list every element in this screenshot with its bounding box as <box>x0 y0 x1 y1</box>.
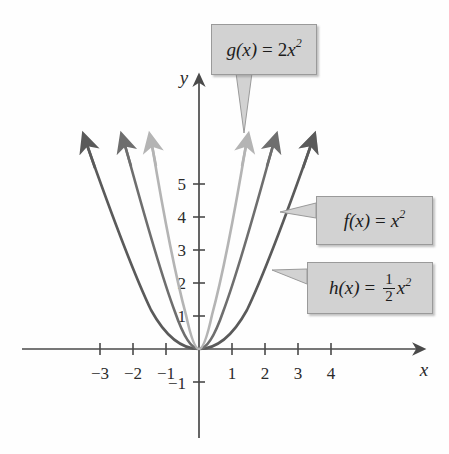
x-tick-label: 4 <box>327 364 336 383</box>
y-tick-label: 5 <box>178 175 187 194</box>
equation-g-arg: (x) <box>236 39 257 61</box>
equation-g-exponent: 2 <box>296 36 302 51</box>
equation-g-coefficient: 2 <box>278 39 288 61</box>
equation-h-arg: (x) <box>338 277 359 299</box>
callout-g: g(x)=2x2 <box>211 24 317 75</box>
equation-f: f(x)=x2 <box>344 210 406 232</box>
equation-g-equals: = <box>262 39 273 61</box>
x-axis-tick-labels: −3 −2 −1 1 2 3 4 <box>91 364 336 383</box>
equation-h-variable: x <box>397 277 405 299</box>
equation-f-exponent: 2 <box>399 207 405 222</box>
y-tick-label: −1 <box>168 374 186 393</box>
equation-f-variable: x <box>391 210 399 232</box>
callout-f: f(x)=x2 <box>316 196 433 245</box>
x-axis-label: x <box>419 359 429 380</box>
equation-f-arg: (x) <box>349 210 370 232</box>
x-tick-label: −2 <box>124 364 142 383</box>
x-tick-label: 3 <box>294 364 303 383</box>
fraction-numerator: 1 <box>383 272 395 287</box>
parabola-comparison-figure: −3 −2 −1 1 2 3 4 −1 1 2 3 4 5 x y <box>0 0 449 454</box>
x-tick-label: 2 <box>261 364 270 383</box>
equation-g-fn: g <box>226 39 236 61</box>
y-axis-label: y <box>178 67 189 88</box>
equation-h: h(x)=12x2 <box>329 272 411 304</box>
y-tick-label: 3 <box>178 241 187 260</box>
equation-g-variable: x <box>287 39 295 61</box>
fraction-denominator: 2 <box>383 288 395 304</box>
y-tick-label: 4 <box>178 208 187 227</box>
equation-h-exponent: 2 <box>405 275 411 290</box>
equation-f-equals: = <box>375 210 386 232</box>
equation-h-equals: = <box>364 277 375 299</box>
x-tick-label: −3 <box>91 364 109 383</box>
fraction-one-half: 12 <box>383 272 395 304</box>
x-tick-label: 1 <box>228 364 237 383</box>
callout-h: h(x)=12x2 <box>307 262 433 314</box>
callout-pointer-g <box>236 73 252 133</box>
equation-g: g(x)=2x2 <box>226 39 301 61</box>
callout-pointer-h <box>272 269 307 284</box>
equation-h-fn: h <box>329 277 339 299</box>
